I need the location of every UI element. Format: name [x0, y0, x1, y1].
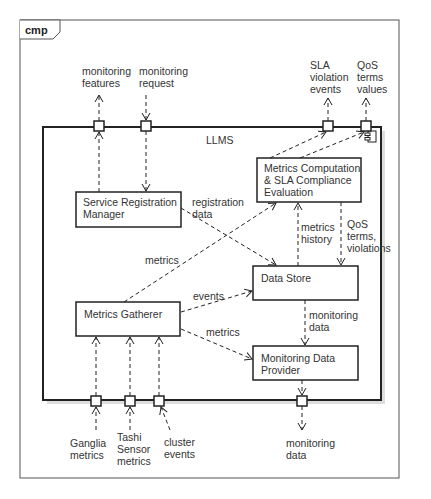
ext-qos-terms-values: QoS terms values — [357, 59, 387, 95]
port-cluster-events — [154, 396, 164, 406]
edge-metrics-to-mcse: metrics — [145, 254, 179, 266]
label-data-store: Data Store — [261, 272, 311, 284]
edge-registration-data: registration data — [192, 196, 244, 220]
port-qos-terms — [361, 121, 371, 131]
edge-metrics-to-mdp: metrics — [206, 326, 240, 338]
label-service-registration-manager: Service Registration Manager — [83, 196, 177, 220]
ext-ganglia-metrics: Ganglia metrics — [70, 437, 106, 461]
label-metrics-gatherer: Metrics Gatherer — [84, 308, 162, 320]
label-monitoring-data-provider: Monitoring Data Provider — [261, 352, 335, 376]
component-name: LLMS — [206, 134, 233, 146]
ext-monitoring-data: monitoring data — [286, 437, 335, 461]
port-tashi — [125, 396, 135, 406]
edge-qos-terms-violations: QoS terms, violations — [347, 218, 391, 254]
edge-events: events — [193, 290, 224, 302]
ext-monitoring-request: monitoring request — [139, 65, 188, 89]
ext-monitoring-features: monitoring features — [82, 65, 131, 89]
ext-cluster-events: cluster events — [164, 436, 195, 460]
label-metrics-computation: Metrics Computation & SLA Compliance Eva… — [264, 162, 360, 198]
edge-metrics-history: metrics history — [301, 221, 335, 245]
edge-monitoring-data: monitoring data — [309, 309, 358, 333]
port-monitoring-request — [141, 121, 151, 131]
ext-tashi-sensor-metrics: Tashi Sensor metrics — [117, 431, 151, 467]
port-sla-violation — [323, 121, 333, 131]
ext-sla-violation-events: SLA violation events — [310, 59, 349, 95]
frame-tab-label: cmp — [25, 24, 48, 36]
port-monitoring-features — [94, 121, 104, 131]
port-ganglia — [91, 396, 101, 406]
port-monitoring-data — [297, 396, 307, 406]
